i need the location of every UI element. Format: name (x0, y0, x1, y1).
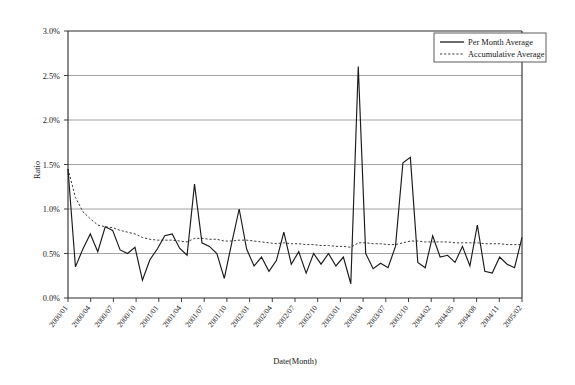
y-tick-label: 0.5% (43, 250, 60, 259)
series-line-per-month-average (68, 67, 522, 284)
line-chart: 0.0%0.5%1.0%1.5%2.0%2.5%3.0% 2000/012000… (0, 0, 575, 385)
series-line-accumulative-average (68, 169, 522, 247)
y-tick-label: 1.0% (43, 205, 60, 214)
x-tick-label: 2000/04 (70, 304, 93, 329)
y-tick-label: 0.0% (43, 294, 60, 303)
legend-label-accumulative-average: Accumulative Average (468, 50, 545, 59)
legend: Per Month Average Accumulative Average (434, 33, 546, 62)
y-tick-label: 3.0% (43, 27, 60, 36)
x-tick-label: 2002/10 (297, 304, 320, 329)
x-tick-label: 2000/10 (115, 304, 138, 329)
y-tick-marks (64, 31, 68, 298)
y-tick-label: 2.0% (43, 116, 60, 125)
x-tick-label: 2003/01 (320, 304, 343, 329)
x-tick-label: 2002/01 (229, 304, 252, 329)
grid-lines (68, 76, 522, 254)
x-tick-label: 2000/01 (47, 304, 70, 329)
x-tick-label: 2003/10 (388, 304, 411, 329)
x-tick-label: 2002/07 (274, 304, 297, 329)
x-tick-label: 2004/08 (456, 304, 479, 329)
y-tick-labels: 0.0%0.5%1.0%1.5%2.0%2.5%3.0% (43, 27, 60, 303)
chart-page: 0.0%0.5%1.0%1.5%2.0%2.5%3.0% 2000/012000… (0, 0, 575, 385)
x-tick-label: 2003/04 (342, 304, 365, 329)
x-tick-label: 2004/11 (479, 304, 501, 329)
x-tick-label: 2000/07 (93, 304, 116, 329)
x-tick-label: 2005/02 (501, 304, 524, 329)
legend-label-per-month-average: Per Month Average (468, 38, 533, 47)
x-axis-title: Date(Month) (273, 357, 317, 366)
x-tick-label: 2004/02 (410, 304, 433, 329)
x-tick-label: 2001/04 (161, 304, 184, 329)
x-tick-label: 2001/10 (206, 304, 229, 329)
y-tick-label: 1.5% (43, 161, 60, 170)
x-tick-label: 2001/01 (138, 304, 161, 329)
x-tick-label: 2002/04 (251, 304, 274, 329)
x-tick-label: 2003/07 (365, 304, 388, 329)
x-tick-label: 2004/05 (433, 304, 456, 329)
x-tick-labels: 2000/012000/042000/072000/102001/012001/… (47, 304, 524, 329)
y-tick-label: 2.5% (43, 72, 60, 81)
x-tick-label: 2001/07 (183, 304, 206, 329)
x-tick-marks (68, 298, 522, 302)
y-axis-title: Ratio (33, 161, 42, 179)
